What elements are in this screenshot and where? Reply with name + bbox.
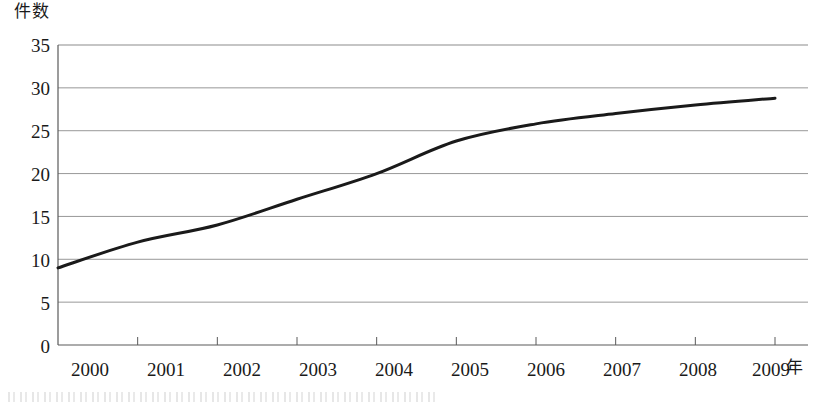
gridlines [58,45,808,302]
x-axis-ticks [138,337,775,345]
plot-area [0,0,817,405]
caption-strip [8,392,438,402]
data-series-line [58,98,775,268]
line-chart: 件数 年 35 30 25 20 15 10 5 0 2000 2001 200… [0,0,817,405]
